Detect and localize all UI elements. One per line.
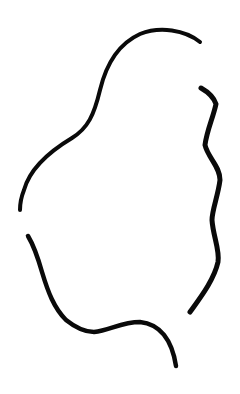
stroke-left-top (20, 30, 200, 210)
line-drawing (0, 0, 240, 394)
stroke-right (190, 88, 220, 312)
stroke-bottom (28, 236, 176, 366)
